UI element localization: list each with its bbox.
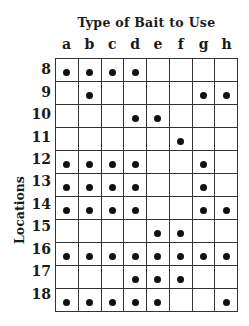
grid-cell-12-g — [192, 151, 215, 174]
table-row — [56, 128, 238, 151]
grid-cell-14-d — [124, 197, 147, 220]
grid-cell-9-a — [56, 82, 79, 105]
dot-marker-icon — [177, 253, 184, 260]
grid-cell-14-e — [147, 197, 170, 220]
grid-cell-16-h — [215, 243, 238, 266]
grid-cell-12-a — [56, 151, 79, 174]
grid-cell-13-e — [147, 174, 170, 197]
dot-marker-icon — [132, 161, 139, 168]
dot-marker-icon — [132, 299, 139, 306]
grid-cell-16-a — [56, 243, 79, 266]
grid-cell-13-b — [78, 174, 101, 197]
dot-marker-icon — [63, 207, 70, 214]
dot-marker-icon — [177, 230, 184, 237]
table-row — [56, 243, 238, 266]
grid-cell-11-b — [78, 128, 101, 151]
dot-marker-icon — [132, 69, 139, 76]
row-header-16: 16 — [26, 238, 53, 260]
grid-cell-8-e — [147, 59, 170, 82]
dot-marker-icon — [63, 161, 70, 168]
dot-marker-icon — [223, 299, 230, 306]
dot-marker-icon — [154, 253, 161, 260]
dot-marker-icon — [223, 253, 230, 260]
grid-cell-11-h — [215, 128, 238, 151]
bait-location-grid — [55, 58, 238, 312]
table-row — [56, 197, 238, 220]
row-header-9: 9 — [26, 80, 53, 102]
grid-cell-18-h — [215, 289, 238, 312]
grid-cell-11-f — [169, 128, 192, 151]
grid-cell-17-c — [101, 266, 124, 289]
grid-cell-14-b — [78, 197, 101, 220]
grid-cell-8-g — [192, 59, 215, 82]
grid-cell-18-f — [169, 289, 192, 312]
dot-marker-icon — [109, 161, 116, 168]
grid-cell-10-c — [101, 105, 124, 128]
grid-cell-12-h — [215, 151, 238, 174]
column-header-f: f — [169, 36, 192, 56]
dot-marker-icon — [86, 207, 93, 214]
dot-marker-icon — [154, 230, 161, 237]
grid-cell-9-e — [147, 82, 170, 105]
grid-cell-18-c — [101, 289, 124, 312]
grid-cell-17-g — [192, 266, 215, 289]
grid-cell-11-d — [124, 128, 147, 151]
grid-cell-9-d — [124, 82, 147, 105]
column-header-g: g — [192, 36, 215, 56]
y-axis-label: Locations — [12, 176, 27, 244]
grid-cell-14-g — [192, 197, 215, 220]
grid-cell-11-a — [56, 128, 79, 151]
grid-cell-9-h — [215, 82, 238, 105]
dot-marker-icon — [132, 276, 139, 283]
grid-cell-18-b — [78, 289, 101, 312]
dot-marker-icon — [154, 299, 161, 306]
dot-marker-icon — [200, 184, 207, 191]
grid-cell-15-h — [215, 220, 238, 243]
grid-cell-17-e — [147, 266, 170, 289]
grid-cell-17-d — [124, 266, 147, 289]
column-header-h: h — [215, 36, 238, 56]
dot-marker-icon — [63, 69, 70, 76]
dot-marker-icon — [86, 299, 93, 306]
grid-cell-15-a — [56, 220, 79, 243]
table-row — [56, 289, 238, 312]
dot-marker-icon — [86, 69, 93, 76]
grid-cell-16-g — [192, 243, 215, 266]
grid-cell-12-f — [169, 151, 192, 174]
dot-marker-icon — [200, 92, 207, 99]
grid-cell-13-a — [56, 174, 79, 197]
table-row — [56, 59, 238, 82]
grid-cell-15-b — [78, 220, 101, 243]
grid-cell-9-f — [169, 82, 192, 105]
grid-cell-18-d — [124, 289, 147, 312]
dot-marker-icon — [109, 184, 116, 191]
grid-cell-13-c — [101, 174, 124, 197]
grid-cell-17-a — [56, 266, 79, 289]
grid-cell-14-c — [101, 197, 124, 220]
dot-marker-icon — [109, 69, 116, 76]
dot-marker-icon — [109, 253, 116, 260]
grid-cell-8-c — [101, 59, 124, 82]
column-header-e: e — [147, 36, 170, 56]
grid-cell-13-f — [169, 174, 192, 197]
grid-cell-12-d — [124, 151, 147, 174]
grid-cell-15-e — [147, 220, 170, 243]
row-header-14: 14 — [26, 193, 53, 215]
column-header-d: d — [124, 36, 147, 56]
grid-cell-15-c — [101, 220, 124, 243]
grid-cell-8-a — [56, 59, 79, 82]
table-row — [56, 82, 238, 105]
grid-cell-12-b — [78, 151, 101, 174]
grid-cell-16-e — [147, 243, 170, 266]
grid-cell-14-f — [169, 197, 192, 220]
dot-marker-icon — [177, 138, 184, 145]
grid-cell-11-e — [147, 128, 170, 151]
column-headers: abcdefgh — [55, 36, 238, 56]
dot-marker-icon — [200, 207, 207, 214]
column-header-b: b — [78, 36, 101, 56]
table-row — [56, 266, 238, 289]
grid-cell-8-f — [169, 59, 192, 82]
dot-marker-icon — [132, 207, 139, 214]
grid-cell-14-a — [56, 197, 79, 220]
grid-cell-15-g — [192, 220, 215, 243]
